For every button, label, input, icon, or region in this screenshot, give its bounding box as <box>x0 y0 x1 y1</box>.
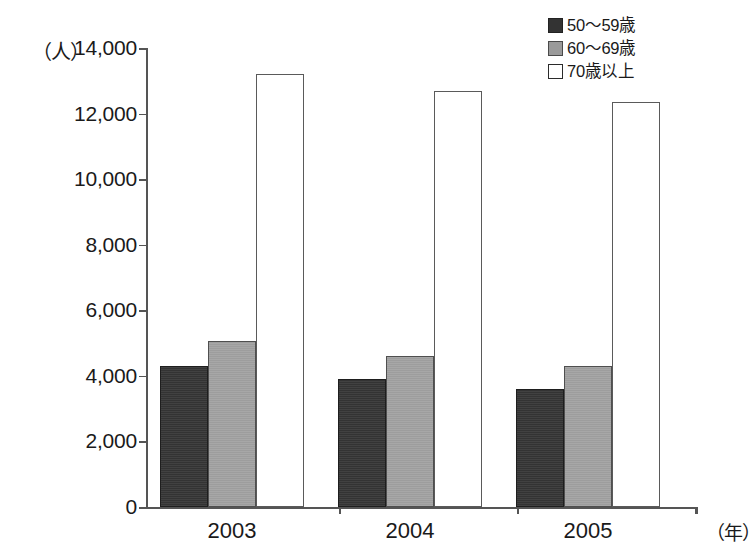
legend-swatch-dark-icon <box>548 18 563 33</box>
y-tick-label-4000: 4,000 <box>85 364 137 388</box>
y-tick-label-8000: 8,000 <box>85 233 137 257</box>
y-tick-label-10000: 10,000 <box>74 167 137 191</box>
y-tick-8000 <box>139 245 146 247</box>
y-tick-label-14000: 14,000 <box>74 36 137 60</box>
y-tick-label-12000: 12,000 <box>74 102 137 126</box>
x-axis-line <box>146 507 698 509</box>
bar-2003-2 <box>208 341 256 507</box>
y-tick-10000 <box>139 179 146 181</box>
y-tick-14000 <box>139 48 146 50</box>
y-tick-12000 <box>139 114 146 116</box>
x-tick-label-2004: 2004 <box>386 518 435 544</box>
y-tick-4000 <box>139 376 146 378</box>
x-tick-label-2005: 2005 <box>564 518 613 544</box>
x-tick-2004 <box>517 507 519 514</box>
x-axis-end-tick <box>696 507 698 514</box>
bar-2005-3 <box>612 102 660 507</box>
x-tick-2003 <box>339 507 341 514</box>
bar-2003-1 <box>160 366 208 507</box>
y-tick-label-6000: 6,000 <box>85 298 137 322</box>
x-axis-unit-label: （年） <box>706 518 749 545</box>
x-tick-label-2003: 2003 <box>208 518 257 544</box>
bar-2004-3 <box>434 91 482 507</box>
y-tick-label-2000: 2,000 <box>85 429 137 453</box>
plot-area: 14,00012,00010,0008,0006,0004,0002,0000 … <box>146 48 698 507</box>
bar-2005-2 <box>564 366 612 507</box>
y-tick-0 <box>139 507 146 509</box>
bar-chart: 50〜59歳 60〜69歳 70歳以上 （人） 14,00012,00010,0… <box>0 0 749 555</box>
y-tick-6000 <box>139 310 146 312</box>
legend-item-50-59: 50〜59歳 <box>548 14 738 37</box>
legend-label-50-59: 50〜59歳 <box>567 17 636 34</box>
y-axis-line <box>146 48 148 507</box>
bar-2004-1 <box>338 379 386 507</box>
y-tick-2000 <box>139 441 146 443</box>
y-tick-label-0: 0 <box>126 495 137 519</box>
bar-2005-1 <box>516 389 564 507</box>
bar-2004-2 <box>386 356 434 507</box>
bar-2003-3 <box>256 74 304 507</box>
